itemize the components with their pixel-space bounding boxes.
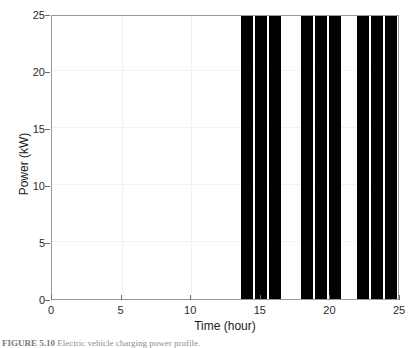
figure-caption: FIGURE 5.10 Electric vehicle charging po…	[2, 338, 413, 348]
gridline-vertical	[191, 16, 192, 299]
y-tick-label: 10	[45, 180, 57, 192]
bar	[357, 16, 369, 299]
gridline-vertical	[122, 16, 123, 299]
x-tick-mark	[329, 295, 330, 300]
bar	[241, 16, 254, 299]
y-tick-label: 25	[45, 9, 57, 21]
x-axis-title: Time (hour)	[51, 319, 399, 333]
figure-caption-label: FIGURE 5.10	[2, 338, 55, 348]
x-tick-mark	[399, 295, 400, 300]
gridline-horizontal	[52, 127, 398, 128]
y-tick-label: 0	[45, 294, 51, 306]
x-axis-ticks	[51, 301, 399, 307]
bar	[315, 16, 327, 299]
gridline-horizontal	[52, 70, 398, 71]
bar	[301, 16, 313, 299]
x-tick-label: 25	[393, 304, 405, 316]
bar	[329, 16, 341, 299]
bar	[385, 16, 397, 299]
x-tick-label: 10	[184, 304, 196, 316]
bar	[269, 16, 281, 299]
x-tick-label: 20	[323, 304, 335, 316]
y-axis-title: Power (kW)	[17, 94, 31, 234]
gridline-horizontal	[52, 241, 398, 242]
x-tick-label: 5	[118, 304, 124, 316]
x-tick-mark	[121, 295, 122, 300]
y-tick-label: 20	[45, 66, 57, 78]
x-tick-label: 15	[254, 304, 266, 316]
gridline-horizontal	[52, 184, 398, 185]
x-tick-mark	[190, 295, 191, 300]
y-tick-label: 15	[45, 123, 57, 135]
figure-caption-text: Electric vehicle charging power profile.	[57, 338, 200, 348]
figure-container: 0510152025 0510152025 Time (hour) Power …	[0, 0, 415, 348]
bar	[371, 16, 383, 299]
y-tick-label: 5	[45, 237, 51, 249]
y-axis-ticks	[51, 15, 57, 300]
bar	[255, 16, 267, 299]
plot-area	[51, 15, 399, 300]
x-tick-mark	[260, 295, 261, 300]
